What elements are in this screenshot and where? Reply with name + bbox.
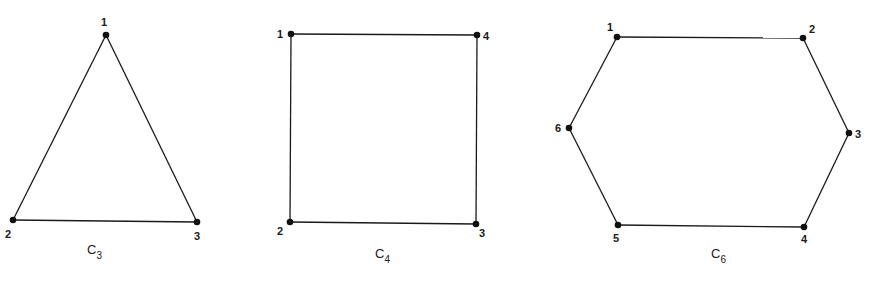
- edge-2-3: [803, 38, 849, 133]
- vertex-label: 3: [855, 128, 861, 140]
- graph-c6: 123456C6: [555, 21, 861, 265]
- vertex-label: 4: [483, 30, 490, 42]
- edge-3-1: [106, 35, 197, 222]
- vertex-3: [194, 219, 201, 226]
- graph-label: C6: [711, 246, 726, 265]
- vertex-2: [800, 35, 807, 42]
- vertex-2: [10, 217, 17, 224]
- vertex-label: 6: [555, 122, 561, 134]
- vertex-label: 5: [613, 232, 619, 244]
- vertex-label: 3: [479, 227, 485, 239]
- vertex-4: [474, 32, 481, 39]
- vertex-1: [103, 32, 110, 39]
- cycle-graphs-diagram: 123C31432C4123456C6: [0, 0, 870, 292]
- vertex-label: 3: [194, 230, 200, 242]
- edge-5-6: [569, 128, 618, 225]
- edge-3-2: [290, 222, 476, 224]
- vertex-5: [615, 222, 622, 229]
- edge-4-3: [476, 35, 477, 224]
- vertex-label: 1: [101, 16, 107, 28]
- edge-2-1: [290, 34, 291, 222]
- vertex-1: [614, 34, 621, 41]
- vertex-3: [846, 130, 853, 137]
- vertex-label: 1: [277, 28, 283, 40]
- vertex-label: 2: [277, 225, 283, 237]
- edge-3-4: [804, 133, 849, 227]
- edge-1-4: [291, 34, 477, 35]
- vertex-4: [801, 224, 808, 231]
- graph-c4: 1432C4: [277, 28, 490, 265]
- vertex-1: [288, 31, 295, 38]
- vertex-2: [287, 219, 294, 226]
- graph-c3: 123C3: [5, 16, 200, 261]
- graph-label: C4: [375, 246, 390, 265]
- vertex-label: 2: [5, 228, 11, 240]
- edge-1-2: [13, 35, 106, 220]
- vertex-label: 2: [809, 23, 815, 35]
- edge-1-2: [617, 37, 803, 38]
- vertex-label: 4: [801, 233, 808, 245]
- edge-6-1: [569, 37, 617, 128]
- graph-label: C3: [87, 242, 102, 261]
- vertex-label: 1: [607, 21, 613, 33]
- edge-2-3: [13, 220, 197, 222]
- vertex-6: [566, 125, 573, 132]
- edge-4-5: [618, 225, 804, 227]
